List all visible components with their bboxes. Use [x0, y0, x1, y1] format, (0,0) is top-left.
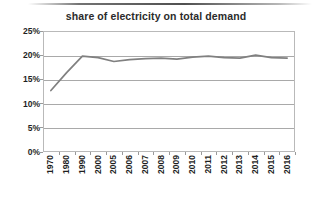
data-series-line [43, 31, 295, 152]
y-tick-label-10: 10% [23, 99, 40, 109]
x-tick-label-2011: 2011 [204, 155, 213, 173]
x-axis-labels: 1970198019902000200520062007200820092010… [43, 155, 295, 197]
chart-title: share of electricity on total demand [0, 10, 312, 22]
x-tick-label-2015: 2015 [267, 155, 276, 174]
x-tick-label-2006: 2006 [125, 155, 134, 174]
x-tick-label-2013: 2013 [235, 155, 244, 174]
x-tick-label-2016: 2016 [283, 155, 292, 174]
x-tick-label-2000: 2000 [94, 155, 103, 174]
x-tick-label-2012: 2012 [220, 155, 229, 174]
y-axis-labels: 0%5%10%15%20%25% [0, 31, 40, 152]
y-tick-label-15: 15% [23, 74, 40, 84]
x-tick-label-2010: 2010 [188, 155, 197, 174]
y-tick-label-25: 25% [23, 26, 40, 36]
y-tick-label-20: 20% [23, 50, 40, 60]
x-tick-label-2005: 2005 [109, 155, 118, 174]
x-tick-mark [295, 152, 296, 155]
chart-container: share of electricity on total demand 0%5… [0, 0, 312, 197]
x-tick-label-2008: 2008 [157, 155, 166, 174]
x-tick-label-1990: 1990 [78, 155, 87, 174]
x-tick-label-1980: 1980 [62, 155, 71, 174]
x-tick-label-2007: 2007 [141, 155, 150, 174]
x-tick-label-2009: 2009 [172, 155, 181, 174]
x-tick-label-1970: 1970 [46, 155, 55, 174]
x-tick-label-2014: 2014 [251, 155, 260, 174]
